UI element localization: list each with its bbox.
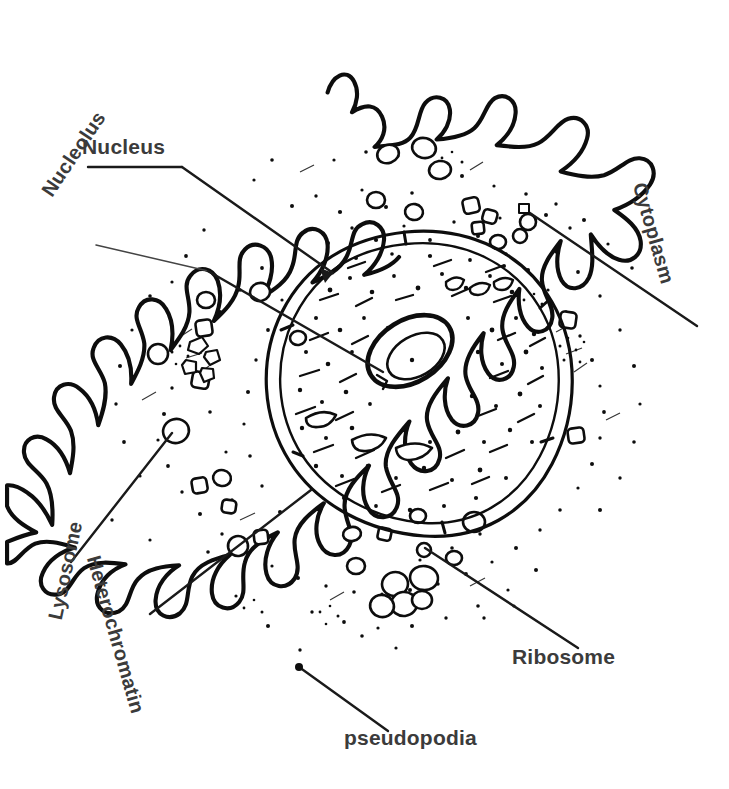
cytoplasm-granule-cluster [182, 337, 220, 382]
nucleus [266, 231, 572, 536]
ribosome-cluster [347, 543, 462, 620]
leader-ribosome [425, 548, 578, 648]
cell-diagram: Nucleus Nucleolus Cytoplasm Lysosome Het… [0, 0, 729, 789]
nucleolus [355, 300, 466, 401]
label-pseudopodia: pseudopodia [344, 726, 477, 750]
leader-lysosome [71, 433, 172, 562]
label-ribosome: Ribosome [512, 645, 615, 669]
leader-pseudopodia [299, 667, 388, 731]
heterochromatin-clumps [306, 277, 513, 460]
cytoplasm-vesicles [148, 135, 585, 557]
leader-nucleolus [208, 271, 383, 372]
leader-nucleolus-thin [96, 245, 208, 271]
